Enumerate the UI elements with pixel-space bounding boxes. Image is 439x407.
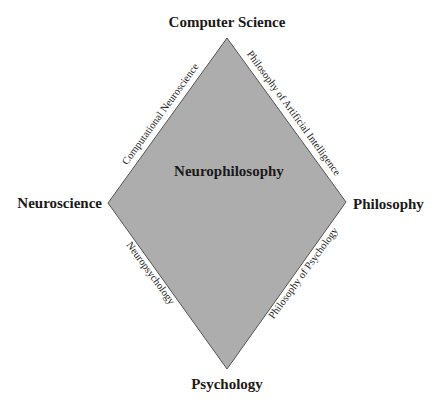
vertex-label-philosophy: Philosophy [353, 196, 424, 212]
interdisciplinary-diamond-diagram: Computer Science Neuroscience Philosophy… [0, 0, 439, 407]
center-label-neurophilosophy: Neurophilosophy [174, 163, 284, 179]
vertex-label-computer-science: Computer Science [169, 14, 286, 30]
vertex-label-psychology: Psychology [191, 376, 263, 392]
neurophilosophy-diamond [108, 38, 346, 369]
vertex-label-neuroscience: Neuroscience [17, 195, 102, 211]
